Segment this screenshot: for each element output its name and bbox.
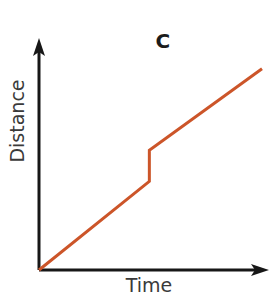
distance-time-line <box>39 69 262 270</box>
chart-title: C <box>118 29 208 53</box>
y-axis-label: Distance <box>6 66 28 176</box>
chart-figure: C Distance Time <box>0 0 278 297</box>
x-axis-label: Time <box>99 274 199 296</box>
